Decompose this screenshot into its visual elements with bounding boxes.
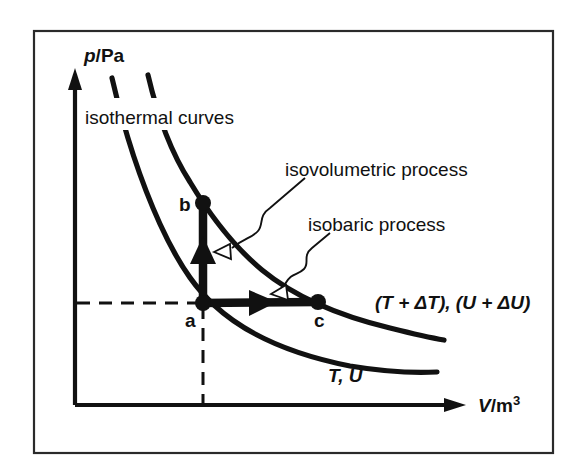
isovolumetric-process-label: isovolumetric process (285, 159, 468, 180)
state-point-a (195, 295, 211, 311)
x-axis-arrowhead (444, 398, 466, 412)
y-axis-label: p/Pa (83, 45, 125, 66)
isovolumetric-leader-line (232, 178, 305, 248)
isobaric-process-label: isobaric process (308, 214, 445, 235)
y-axis-label-symbol: p (83, 45, 96, 66)
isobaric-leader-arrowhead-icon (271, 285, 288, 300)
isovolumetric-leader-arrowhead-icon (214, 244, 231, 259)
isovolumetric-process-arrowhead (190, 236, 216, 264)
isothermal-curves-label: isothermal curves (85, 107, 234, 128)
x-axis-label: V/m3 (478, 393, 520, 416)
state-point-b-label: b (179, 194, 191, 215)
state-point-a-label: a (185, 310, 196, 331)
y-axis-arrowhead (68, 68, 82, 90)
figure-root: p/Pa V/m3 isothermal curves isovolumetri… (0, 0, 576, 476)
figure-border (34, 31, 553, 453)
state-point-c-label: c (314, 310, 325, 331)
lower-isotherm-state-label: T, U (328, 365, 364, 386)
pv-diagram-svg: p/Pa V/m3 isothermal curves isovolumetri… (0, 0, 576, 476)
y-axis-label-unit: /Pa (96, 45, 125, 66)
x-axis-label-exponent: 3 (513, 393, 520, 408)
isobaric-leader-line (285, 233, 330, 284)
state-point-c (310, 294, 326, 310)
x-axis-label-unit: /m (491, 395, 513, 416)
upper-isotherm-state-label: (T + ΔT), (U + ΔU) (375, 292, 530, 313)
state-point-b (195, 195, 211, 211)
